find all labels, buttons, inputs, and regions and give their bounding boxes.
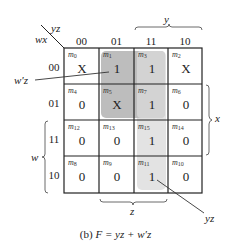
brace-label-w: w bbox=[31, 151, 38, 163]
brace-x bbox=[206, 85, 212, 155]
col-var-label: yz bbox=[51, 22, 60, 34]
cell-value: 1 bbox=[100, 61, 134, 77]
kmap-cell-m1: m1 1 bbox=[100, 49, 134, 85]
brace-w bbox=[42, 121, 48, 193]
cell-value: 1 bbox=[135, 169, 169, 185]
figure-caption: (b) F = yz + w′z bbox=[0, 228, 231, 240]
cell-value: 0 bbox=[65, 169, 99, 185]
cell-value: 1 bbox=[135, 97, 169, 113]
kmap-cell-m11: m11 1 bbox=[135, 157, 169, 193]
kmap-cell-m9: m9 0 bbox=[100, 157, 134, 193]
cell-value: 0 bbox=[100, 133, 134, 149]
kmap-cell-m13: m13 0 bbox=[100, 121, 134, 157]
cell-value: 0 bbox=[65, 133, 99, 149]
cell-value: 0 bbox=[100, 169, 134, 185]
row-var-label: wx bbox=[35, 33, 47, 45]
col-header: 01 bbox=[99, 35, 134, 47]
cell-value: 0 bbox=[169, 133, 203, 149]
kmap-cell-m7: m7 1 bbox=[135, 85, 169, 121]
kmap-cell-m14: m14 0 bbox=[169, 121, 203, 157]
cell-value: 0 bbox=[65, 97, 99, 113]
brace-label-z: z bbox=[130, 205, 134, 217]
row-header: 11 bbox=[46, 133, 62, 145]
brace-label-y: y bbox=[164, 13, 169, 25]
col-header: 11 bbox=[134, 35, 168, 47]
col-header: 10 bbox=[168, 35, 202, 47]
kmap-cell-m8: m8 0 bbox=[65, 157, 99, 193]
caption-expression: F = yz + w′z bbox=[95, 228, 151, 240]
kmap-cell-m12: m12 0 bbox=[65, 121, 99, 157]
row-header: 00 bbox=[46, 61, 62, 73]
row-header: 01 bbox=[46, 97, 62, 109]
kmap-cell-m0: m0 X bbox=[65, 49, 99, 85]
cell-value: X bbox=[169, 61, 203, 77]
row-header: 10 bbox=[46, 169, 62, 181]
kmap-cell-m3: m3 1 bbox=[135, 49, 169, 85]
kmap-cell-m15: m15 1 bbox=[135, 121, 169, 157]
kmap-cell-m10: m10 0 bbox=[169, 157, 203, 193]
cell-value: 0 bbox=[169, 169, 203, 185]
brace-label-x: x bbox=[215, 112, 220, 124]
cell-value: X bbox=[100, 97, 134, 113]
group-label-w-prime-z: w'z bbox=[14, 74, 28, 86]
kmap-cell-m4: m4 0 bbox=[65, 85, 99, 121]
group-label-yz: yz bbox=[205, 212, 214, 224]
cell-value: 0 bbox=[169, 97, 203, 113]
kmap-cell-m5: m5 X bbox=[100, 85, 134, 121]
cell-value: 1 bbox=[135, 61, 169, 77]
kmap-cell-m2: m2 X bbox=[169, 49, 203, 85]
kmap-cell-m6: m6 0 bbox=[169, 85, 203, 121]
cell-value: X bbox=[65, 61, 99, 77]
cell-value: 1 bbox=[135, 133, 169, 149]
col-header: 00 bbox=[64, 35, 99, 47]
